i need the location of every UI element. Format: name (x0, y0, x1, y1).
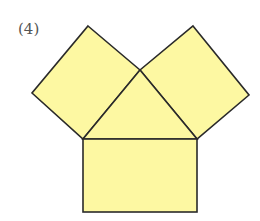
bottom-rectangle (83, 139, 197, 212)
geometry-figure (0, 0, 260, 221)
